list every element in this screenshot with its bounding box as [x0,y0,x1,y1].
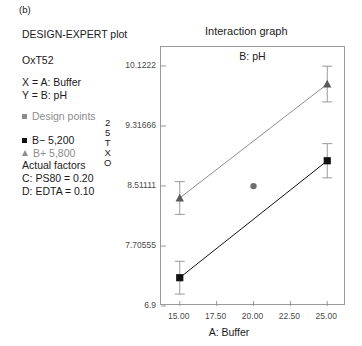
series-line-1 [180,84,328,198]
actual-factors-heading: Actual factors [22,159,86,171]
x-tick-label-0: 15.00 [168,311,189,321]
x-tick-label-2: 20.00 [242,311,263,321]
y-tick-label-0: 6.9 [118,300,156,310]
legend-series-low-label: B− 5,200 [32,134,74,146]
series-high-marker-icon [22,150,28,156]
legend-item-design-points: Design points [22,110,96,122]
actual-factor-d: D: EDTA = 0.10 [22,185,94,198]
interaction-graph-figure: (b) DESIGN-EXPERT plot OxT52 X = A: Buff… [0,0,362,346]
y-mapping: Y = B: pH [22,89,81,102]
series-line-0 [180,161,328,278]
design-point-0 [250,183,256,189]
vertical-code-char-4: O [104,158,111,168]
y-tick-label-4: 10.1222 [118,60,156,70]
x-axis-title: A: Buffer [113,326,250,338]
vertical-code-label: 2 5 T X O [104,118,111,168]
design-point-marker-icon [22,114,27,119]
y-tick-label-2: 8.51111 [118,180,156,190]
y-tick-label-3: 9.31666 [118,120,156,130]
data-point-0-1 [324,157,331,164]
y-tick-label-1: 7.70555 [118,240,156,250]
plot-svg [161,47,346,306]
legend-item-series-low: B− 5,200 [22,134,74,146]
axis-mapping-block: X = A: Buffer Y = B: pH [22,76,81,101]
legend-item-series-high: B+ 5,800 [22,147,75,159]
x-axis-title-wrap: A: Buffer [0,326,362,338]
x-tick-label-1: 17.50 [205,311,226,321]
data-point-1-0 [176,194,184,202]
response-name: OxT52 [22,54,54,66]
series-low-marker-icon [22,138,27,143]
actual-factors-list: C: PS80 = 0.20 D: EDTA = 0.10 [22,172,94,197]
plot-area: B: pH [160,46,345,305]
legend-series-high-label: B+ 5,800 [33,147,75,159]
chart-title: Interaction graph [205,25,288,37]
data-point-0-0 [176,274,183,281]
x-tick-label-4: 25.00 [316,311,337,321]
design-expert-plot-title: DESIGN-EXPERT plot [22,28,127,40]
figure-label: (b) [19,4,31,15]
actual-factor-c: C: PS80 = 0.20 [22,172,94,185]
data-point-1-1 [323,80,331,88]
x-mapping: X = A: Buffer [22,76,81,89]
legend-design-points-label: Design points [32,110,96,122]
x-tick-label-3: 22.50 [279,311,300,321]
